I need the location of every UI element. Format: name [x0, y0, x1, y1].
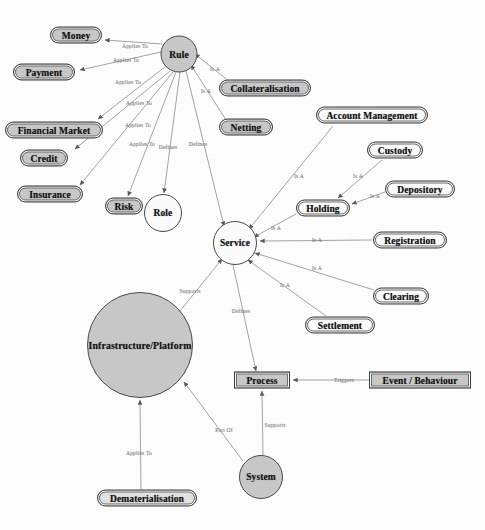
edge-service-process: [233, 265, 256, 371]
edge-label-rule-service: Defines: [189, 141, 207, 147]
node-risk[interactable]: Risk: [105, 198, 143, 215]
node-payment[interactable]: Payment: [13, 64, 75, 81]
edge-rule-role: [164, 72, 180, 193]
node-rule[interactable]: Rule: [161, 36, 198, 73]
edge-label-account-service: Is A: [294, 173, 304, 179]
edge-label-custody-holding: Is A: [353, 173, 363, 179]
node-insurance[interactable]: Insurance: [17, 186, 83, 203]
edge-label-infra-service: Supports: [179, 288, 200, 294]
edge-label-event-process: Triggers: [334, 377, 354, 383]
edge-rule-service: [186, 71, 224, 226]
node-registration[interactable]: Registration: [373, 232, 447, 249]
node-money[interactable]: Money: [50, 27, 102, 44]
edge-label-system-process: Supports: [264, 422, 285, 428]
edge-label-rule-money: Applies To: [122, 43, 148, 49]
node-custody[interactable]: Custody: [367, 142, 423, 159]
node-settlement[interactable]: Settlement: [305, 317, 375, 334]
node-service[interactable]: Service: [213, 221, 257, 265]
node-clearing[interactable]: Clearing: [373, 288, 429, 305]
node-process[interactable]: Process: [234, 372, 290, 389]
edge-label-system-infra: Part Of: [215, 427, 232, 433]
edge-label-service-process: Defines: [232, 308, 250, 314]
node-role[interactable]: Role: [144, 194, 182, 232]
node-dematerial[interactable]: Dematerialisation: [97, 490, 197, 507]
edge-label-netting-rule: Is A: [201, 88, 211, 94]
edge-rule-risk: [128, 72, 176, 196]
node-depository[interactable]: Depository: [385, 181, 455, 198]
edge-label-rule-role: Defines: [159, 144, 177, 150]
edge-label-settlement-service: Is A: [280, 282, 290, 288]
edge-label-registration-service: Is A: [312, 237, 322, 243]
edge-label-collateral-rule: Is A: [210, 66, 220, 72]
edge-label-clearing-service: Is A: [312, 265, 322, 271]
edge-clearing-service: [255, 253, 374, 290]
node-event[interactable]: Event / Behaviour: [369, 372, 471, 389]
node-infrastructure[interactable]: Infrastructure/Platform: [87, 292, 193, 398]
node-financial[interactable]: Financial Market: [5, 122, 103, 139]
edge-label-rule-credit: Applies To: [126, 100, 152, 106]
node-holding[interactable]: Holding: [296, 200, 350, 217]
edge-label-depository-holding: Is A: [370, 193, 380, 199]
edge-label-rule-risk: Applies To: [129, 141, 155, 147]
edge-label-rule-insurance: Applies To: [125, 122, 151, 128]
edge-system-process: [262, 391, 263, 455]
edge-label-rule-financial: Applies To: [115, 79, 141, 85]
edge-demat-infra: [140, 400, 141, 489]
edge-system-infra: [184, 382, 243, 461]
node-collateral[interactable]: Collateralisation: [219, 80, 311, 97]
edge-label-holding-service: Is A: [271, 225, 281, 231]
node-credit[interactable]: Credit: [20, 150, 68, 167]
node-netting[interactable]: Netting: [219, 119, 273, 136]
node-account[interactable]: Account Management: [316, 107, 428, 124]
edge-label-rule-payment: Applies To: [113, 57, 139, 63]
node-system[interactable]: System: [239, 455, 283, 499]
edge-label-demat-infra: Applies To: [126, 450, 152, 456]
diagram-canvas: MoneyPaymentFinancial MarketCreditInsura…: [0, 0, 485, 530]
